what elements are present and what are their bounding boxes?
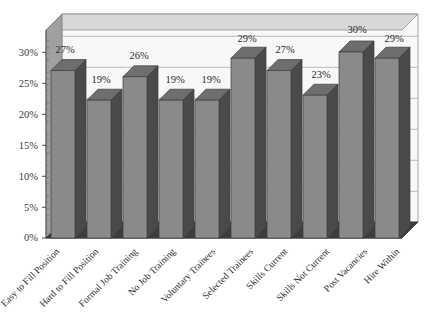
bar-data-label: 27% xyxy=(55,44,75,55)
bar-data-label: 19% xyxy=(165,74,185,85)
bar-data-label: 23% xyxy=(311,69,331,80)
bar-column xyxy=(303,84,338,238)
bar-column xyxy=(231,47,266,238)
y-tick-label: 15% xyxy=(19,140,39,151)
bar-data-label: 27% xyxy=(275,44,295,55)
bar-data-label: 26% xyxy=(129,50,149,61)
bar-data-label: 19% xyxy=(91,74,111,85)
bar-column xyxy=(87,89,122,238)
bar-column xyxy=(267,60,302,238)
bar-column xyxy=(51,60,86,238)
bar-data-label: 30% xyxy=(347,24,367,35)
bar-data-label: 29% xyxy=(237,33,257,44)
bar-chart-figure: 0% 5% 10% 15% 20% 25% 30% xyxy=(0,0,433,312)
y-tick-label: 0% xyxy=(24,232,38,243)
y-tick-label: 25% xyxy=(19,78,39,89)
y-tick-label: 20% xyxy=(19,109,39,120)
bar-data-label: 29% xyxy=(384,33,404,44)
bar-column xyxy=(375,47,410,238)
y-tick-label: 10% xyxy=(19,171,39,182)
bar-column xyxy=(123,66,158,238)
bar-column xyxy=(339,41,374,238)
y-tick-label: 30% xyxy=(19,47,39,58)
bar-column xyxy=(159,89,194,238)
chart-canvas: 0% 5% 10% 15% 20% 25% 30% xyxy=(0,0,433,312)
bar-column xyxy=(195,89,230,238)
bar-data-label: 19% xyxy=(201,74,221,85)
y-tick-label: 5% xyxy=(24,202,38,213)
